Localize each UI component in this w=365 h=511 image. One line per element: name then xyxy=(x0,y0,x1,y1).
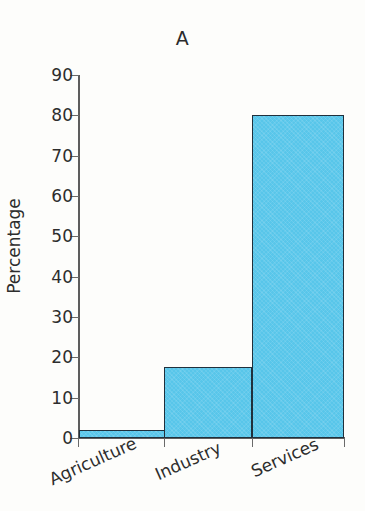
y-axis-line xyxy=(78,75,80,439)
y-tick-label: 90 xyxy=(51,65,73,85)
y-tick-label: 20 xyxy=(51,347,73,367)
x-tick-boundary-2 xyxy=(252,438,253,447)
x-tick-boundary-0 xyxy=(78,438,79,447)
y-tick-label: 0 xyxy=(62,428,73,448)
y-tick-label: 80 xyxy=(51,105,73,125)
x-tick-label-agriculture: Agriculture xyxy=(46,433,140,489)
x-tick-boundary-3 xyxy=(344,438,345,447)
y-tick-label: 70 xyxy=(51,146,73,166)
y-tick-label: 40 xyxy=(51,267,73,287)
y-tick-label: 50 xyxy=(51,226,73,246)
y-axis-label: Percentage xyxy=(4,176,24,316)
y-tick-label: 60 xyxy=(51,186,73,206)
plot-area: 0 10 20 30 40 50 60 70 xyxy=(78,75,345,438)
bar-services xyxy=(252,115,344,438)
chart-figure: A Percentage 0 10 20 30 40 50 xyxy=(0,0,365,511)
x-tick-label-services: Services xyxy=(248,434,322,481)
x-tick-boundary-1 xyxy=(164,438,165,447)
bar-industry xyxy=(164,367,252,438)
x-tick-label-industry: Industry xyxy=(152,437,224,484)
y-tick-label: 10 xyxy=(51,388,73,408)
chart-title: A xyxy=(0,27,365,49)
y-tick-label: 30 xyxy=(51,307,73,327)
